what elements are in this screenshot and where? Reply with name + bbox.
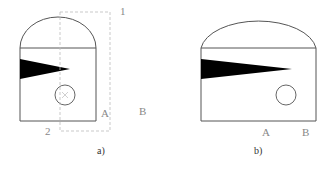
- panel-a-circle-x-icon: [62, 92, 68, 98]
- panel-a-wedge: [20, 59, 70, 79]
- panel-b-label-a: A: [262, 127, 270, 138]
- panel-a: [20, 12, 110, 131]
- panel-a-caption: a): [97, 146, 105, 156]
- panel-b-wedge: [201, 59, 292, 79]
- panel-a-label-a: A: [101, 108, 109, 119]
- panel-b-circle: [276, 85, 296, 105]
- panel-b: [201, 21, 316, 121]
- panel-b-caption: b): [254, 146, 262, 156]
- panel-b-label-b: B: [302, 127, 309, 138]
- panel-a-label-1: 1: [120, 6, 126, 17]
- diagram-canvas: [0, 0, 334, 171]
- panel-a-label-b: B: [139, 106, 146, 117]
- panel-a-label-2: 2: [45, 126, 51, 137]
